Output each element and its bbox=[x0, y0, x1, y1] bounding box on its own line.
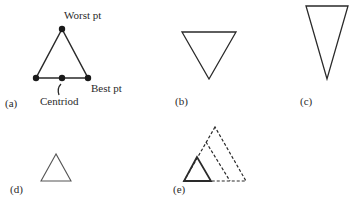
best-point-label: Best pt bbox=[91, 83, 122, 94]
panel-c-expanded-triangle bbox=[306, 6, 348, 79]
panel-e-label: (e) bbox=[173, 184, 185, 195]
centroid-pointer-arrow bbox=[58, 84, 61, 95]
centroid-dot bbox=[59, 75, 65, 81]
dashed-large-triangle bbox=[184, 127, 246, 181]
panel-d-label: (d) bbox=[10, 184, 23, 195]
panel-a-points bbox=[33, 26, 91, 81]
vertex-left-dot bbox=[33, 75, 39, 81]
panel-c-label: (c) bbox=[300, 96, 312, 107]
panel-b-reflected-triangle bbox=[182, 32, 236, 79]
panel-d-contracted-triangle bbox=[41, 154, 71, 181]
panel-b-label: (b) bbox=[175, 96, 188, 107]
panel-a-simplex bbox=[36, 29, 88, 78]
panel-e-shrink bbox=[184, 127, 246, 181]
worst-point-label: Worst pt bbox=[64, 10, 101, 21]
panel-a-label: (a) bbox=[5, 98, 17, 109]
centroid-label: Centriod bbox=[40, 96, 79, 107]
worst-point-dot bbox=[59, 26, 65, 32]
best-point-dot bbox=[85, 75, 91, 81]
solid-shrunk-triangle bbox=[184, 157, 211, 181]
triangle-original bbox=[36, 29, 88, 78]
